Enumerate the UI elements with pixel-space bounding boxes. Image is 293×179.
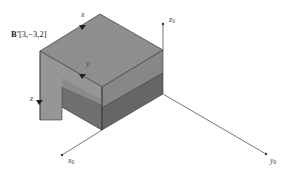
isometric-block-diagram <box>0 0 293 179</box>
local-y-label: y <box>86 60 90 68</box>
global-x0-label: x0 <box>68 157 74 166</box>
axis-y0 <box>163 94 266 154</box>
axis-x0-end-dot <box>61 154 63 156</box>
z0-sub: 0 <box>172 18 175 24</box>
point-coords: [3,−3,2] <box>19 29 46 39</box>
axis-z0-end-dot <box>162 23 164 25</box>
local-x-label: x <box>81 11 85 19</box>
global-y0-label: y0 <box>270 157 276 166</box>
y0-sub: 0 <box>274 159 277 165</box>
point-b-prime-label: B'[3,−3,2] <box>11 30 47 39</box>
x0-sub: 0 <box>72 159 75 165</box>
global-z0-label: z0 <box>169 16 175 25</box>
local-z-label: z <box>30 95 33 103</box>
local-y-text: y <box>86 59 90 68</box>
axis-y0-end-dot <box>265 153 267 155</box>
point-name: B' <box>11 29 19 39</box>
local-x-text: x <box>81 10 85 19</box>
local-z-text: z <box>30 94 33 103</box>
axis-x0 <box>62 130 102 155</box>
